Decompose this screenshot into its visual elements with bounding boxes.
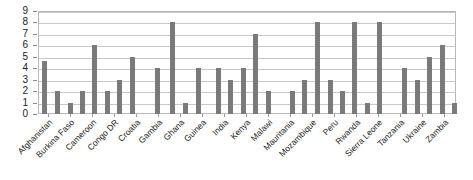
bar [92,45,97,114]
bar [328,80,333,114]
y-tick-mark [33,45,37,46]
bar [241,68,246,114]
bar [302,80,307,114]
bar [452,103,457,114]
y-tick-mark [33,91,37,92]
bar [415,80,420,114]
y-tick-mark [33,80,37,81]
y-tick-label: 3 [22,75,28,85]
y-tick-mark [33,22,37,23]
bar [440,45,445,114]
y-tick-label: 8 [22,17,28,27]
bar [340,91,345,114]
bar [402,68,407,114]
x-axis-labels: AfghanistanBurkina FasoCameroonCongo DRC… [0,116,473,180]
bar [365,103,370,114]
y-tick-label: 1 [22,98,28,108]
bar [130,57,135,114]
bar [253,34,258,114]
y-tick-label: 5 [22,52,28,62]
y-tick-label: 7 [22,29,28,39]
y-tick-mark [33,68,37,69]
bar [228,80,233,114]
y-tick-mark [33,57,37,58]
bar [352,22,357,114]
bar [427,57,432,114]
bar [42,61,47,114]
bar [216,68,221,114]
bar [196,68,201,114]
y-tick-mark [33,34,37,35]
bar [290,91,295,114]
y-tick-mark [33,11,37,12]
y-tick-mark [33,114,37,115]
y-tick-label: 6 [22,40,28,50]
bar [315,22,320,114]
bar [155,68,160,114]
bar-chart: 9876543210 AfghanistanBurkina FasoCamero… [0,0,473,180]
bar [266,91,271,114]
y-tick-label: 2 [22,86,28,96]
bar [80,91,85,114]
bar [117,80,122,114]
bar [105,91,110,114]
y-tick-label: 9 [22,6,28,16]
bar [68,103,73,114]
bars-layer [38,11,456,114]
bar [170,22,175,114]
y-tick-label: 4 [22,63,28,73]
y-tick-mark [33,103,37,104]
bar [55,91,60,114]
bar [377,22,382,114]
bar [183,103,188,114]
